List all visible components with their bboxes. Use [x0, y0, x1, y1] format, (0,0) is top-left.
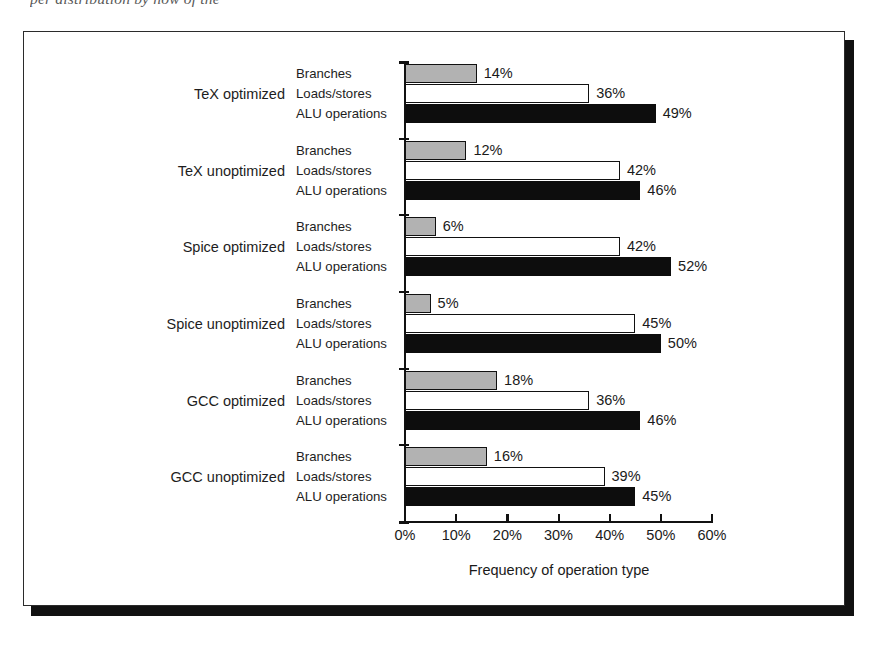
series-label-branches: Branches — [296, 219, 352, 234]
series-label-loads: Loads/stores — [296, 316, 372, 331]
group-label-tex-optimized: TeX optimized — [35, 86, 285, 102]
bar-value-label: 18% — [504, 371, 533, 390]
series-label-loads: Loads/stores — [296, 393, 372, 408]
bar-alu — [405, 411, 640, 430]
bar-value-label: 42% — [627, 237, 656, 256]
bar-value-label: 42% — [627, 161, 656, 180]
series-label-loads: Loads/stores — [296, 469, 372, 484]
bar-alu — [405, 181, 640, 200]
bar-value-label: 12% — [473, 141, 502, 160]
value-axis-tick — [711, 514, 713, 523]
series-label-alu: ALU operations — [296, 489, 387, 504]
series-label-branches: Branches — [296, 296, 352, 311]
bar-alu — [405, 334, 661, 353]
bar-alu — [405, 487, 635, 506]
series-label-branches: Branches — [296, 373, 352, 388]
value-axis-tick — [609, 514, 611, 523]
series-label-branches: Branches — [296, 143, 352, 158]
series-label-loads: Loads/stores — [296, 163, 372, 178]
bar-value-label: 36% — [596, 391, 625, 410]
series-label-alu: ALU operations — [296, 336, 387, 351]
bar-branches — [405, 64, 477, 83]
group-label-gcc-unoptimized: GCC unoptimized — [35, 469, 285, 485]
series-label-alu: ALU operations — [296, 183, 387, 198]
bar-value-label: 5% — [438, 294, 459, 313]
bar-alu — [405, 257, 671, 276]
series-label-loads: Loads/stores — [296, 86, 372, 101]
bar-alu — [405, 104, 656, 123]
bar-value-label: 49% — [663, 104, 692, 123]
category-axis-tick — [399, 368, 409, 370]
value-axis-tick — [558, 514, 560, 523]
bar-branches — [405, 141, 466, 160]
category-axis-tick — [399, 521, 409, 524]
series-label-branches: Branches — [296, 449, 352, 464]
bar-loads — [405, 467, 605, 486]
bar-loads — [405, 314, 635, 333]
bar-value-label: 50% — [668, 334, 697, 353]
chart-plot-area: 0%10%20%30%40%50%60% TeX optimizedBranch… — [0, 0, 869, 651]
bar-value-label: 14% — [484, 64, 513, 83]
series-label-alu: ALU operations — [296, 259, 387, 274]
value-axis-tick — [455, 514, 457, 523]
value-axis-tick — [660, 514, 662, 523]
bar-loads — [405, 84, 589, 103]
bar-value-label: 6% — [443, 217, 464, 236]
bar-value-label: 46% — [647, 411, 676, 430]
value-axis-tick — [506, 514, 508, 523]
bar-value-label: 45% — [642, 314, 671, 333]
series-label-alu: ALU operations — [296, 413, 387, 428]
bar-loads — [405, 161, 620, 180]
category-axis-tick — [399, 138, 409, 140]
bar-loads — [405, 391, 589, 410]
bar-branches — [405, 294, 431, 313]
series-label-loads: Loads/stores — [296, 239, 372, 254]
bar-value-label: 46% — [647, 181, 676, 200]
group-label-spice-optimized: Spice optimized — [35, 239, 285, 255]
group-label-gcc-optimized: GCC optimized — [35, 393, 285, 409]
category-axis-tick — [399, 214, 409, 216]
category-axis-tick — [399, 444, 409, 446]
bar-branches — [405, 447, 487, 466]
bar-value-label: 16% — [494, 447, 523, 466]
bar-branches — [405, 371, 497, 390]
bar-loads — [405, 237, 620, 256]
bar-branches — [405, 217, 436, 236]
series-label-branches: Branches — [296, 66, 352, 81]
bar-value-label: 39% — [612, 467, 641, 486]
value-axis-tick-label: 60% — [682, 527, 742, 543]
group-label-tex-unoptimized: TeX unoptimized — [35, 163, 285, 179]
group-label-spice-unoptimized: Spice unoptimized — [35, 316, 285, 332]
bar-value-label: 52% — [678, 257, 707, 276]
series-label-alu: ALU operations — [296, 106, 387, 121]
value-axis-title: Frequency of operation type — [405, 562, 713, 578]
bar-value-label: 36% — [596, 84, 625, 103]
bar-value-label: 45% — [642, 487, 671, 506]
category-axis-tick — [399, 291, 409, 293]
